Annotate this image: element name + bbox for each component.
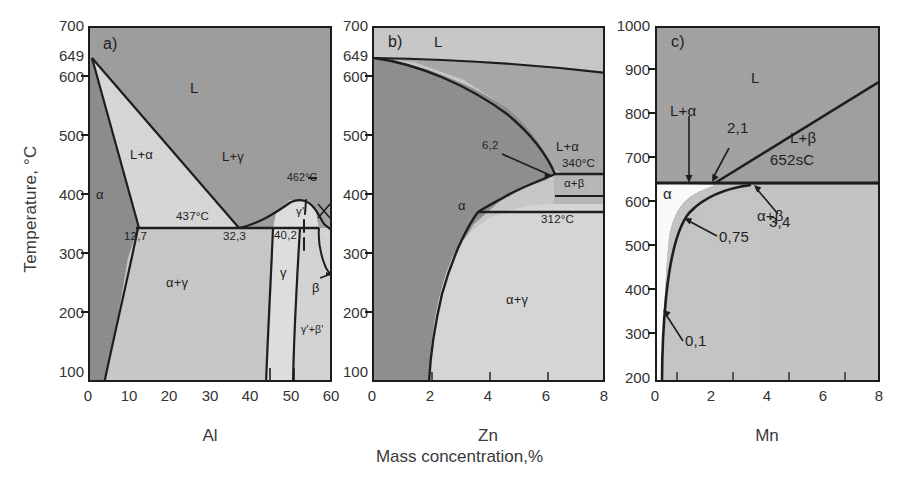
panel-c-label-alpha: α [663,186,672,201]
panel-a-ytickmark-300 [81,252,89,254]
panel-a-ytick-300: 300 [40,246,84,261]
panel-b-ytickmark-300 [365,252,373,254]
panel-a-xtick-40: 40 [234,388,266,403]
panel-b-label-6-2: 6,2 [482,140,499,152]
panel-a-ytick-400: 400 [40,187,84,202]
panel-a-label-40-2: 40,2 [274,230,297,242]
panel-b-ytick-500: 500 [324,128,368,143]
panel-b-ytick-300: 300 [324,246,368,261]
panel-b-mg-zn: b) L L+α α α+β α+γ 6,2 340°C 312°C 700 6… [372,26,605,382]
panel-c-ytick-300: 300 [600,326,650,341]
panel-a-label-gamma: γ [280,266,287,279]
panel-b-x-axis-name: Zn [408,426,568,446]
panel-a-xtick-60: 60 [315,388,347,403]
panel-b-xtick-2: 2 [414,388,446,403]
figure-caption: Mass concentration,% [0,447,919,467]
panel-c-label-0-75: 0,75 [719,229,749,244]
panel-c-label-3-4: 3,4 [769,214,790,229]
panel-a-xtick-0: 0 [72,388,104,403]
panel-b-xtick-0: 0 [356,388,388,403]
panel-a-label-alpha: α [96,188,104,201]
panel-a-label-l-alpha: L+α [130,148,153,161]
panel-c-ytick-200: 200 [600,370,650,385]
panel-b-plot-area: b) L L+α α α+β α+γ 6,2 340°C 312°C [372,26,605,382]
panel-b-ytickmark-200 [365,311,373,313]
panel-b-label-340c: 340°C [562,158,595,170]
panel-b-ytick-649: 649 [324,48,368,63]
panel-c-xtick-4: 4 [751,388,783,403]
panel-b-ytickmark-500 [365,134,373,136]
panel-a-ytickmark-500 [81,134,89,136]
panel-a-label-gamma-prime: γ' [296,206,304,218]
panel-c-ytick-700: 700 [600,150,650,165]
panel-c-ytickmark-300 [648,332,656,334]
panel-c-mg-mn: c) L L+α L+β α α+β 2,1 652sC 3,4 0,75 0,… [655,26,880,382]
panel-c-ytickmark-400 [648,288,656,290]
panel-a-ytick-100: 100 [40,364,84,379]
panel-a-ytickmark-600 [81,75,89,77]
panel-c-ytickmark-900 [648,68,656,70]
panel-c-label-l-beta: L+β [790,130,816,145]
panel-b-ytick-700: 700 [324,18,368,33]
panel-a-id: a) [103,36,118,52]
panel-a-label-beta: β [312,281,320,294]
panel-c-xtick-0: 0 [639,388,671,403]
panel-c-ytick-1000: 1000 [600,18,650,33]
panel-c-label-l-alpha: L+α [670,103,696,118]
panel-a-label-12-7: 12,7 [124,231,147,243]
panel-c-label-liquid: L [751,70,760,85]
panel-a-ytick-500: 500 [40,128,84,143]
panel-b-label-liquid: L [434,34,443,49]
panel-c-xtick-8: 8 [863,388,895,403]
panel-a-xtick-50: 50 [275,388,307,403]
panel-b-ytickmark-400 [365,193,373,195]
panel-b-label-alpha-gamma: α+γ [506,293,528,306]
panel-a-xtick-20: 20 [153,388,185,403]
panel-b-ytick-200: 200 [324,305,368,320]
panel-c-ytick-500: 500 [600,238,650,253]
panel-c-ytickmark-700 [648,156,656,158]
panel-c-ytickmark-500 [648,244,656,246]
panel-b-id: b) [388,34,403,50]
panel-a-ytick-200: 200 [40,305,84,320]
panel-a-label-462c: 462°C [287,172,317,183]
panel-a-mg-al: a) L L+α L+γ α α+γ γ γ' β γ'+β' 437°C 46… [88,26,332,382]
panel-b-ytickmark-600 [365,75,373,77]
panel-c-ytick-400: 400 [600,282,650,297]
panel-c-ytick-900: 900 [600,62,650,77]
panel-c-diagram [657,28,880,382]
panel-a-xtick-30: 30 [194,388,226,403]
panel-b-xtick-4: 4 [472,388,504,403]
panel-a-ytickmark-200 [81,311,89,313]
panel-a-xtick-10: 10 [113,388,145,403]
panel-a-x-axis-name: Al [130,426,290,446]
panel-a-label-32-3: 32,3 [223,231,246,243]
panel-c-label-0-1: 0,1 [685,333,706,348]
panel-a-ytick-649: 649 [40,48,84,63]
panel-c-id: c) [671,34,685,50]
panel-a-label-alpha-gamma: α+γ [166,276,188,289]
panel-a-label-l-gamma: L+γ [222,150,244,163]
panel-c-xtick-6: 6 [807,388,839,403]
panel-c-xtick-2: 2 [695,388,727,403]
panel-b-label-alpha: α [458,199,466,212]
panel-a-ytick-700: 700 [40,18,84,33]
panel-a-ytickmark-400 [81,193,89,195]
panel-a-label-gammaprime-betaprime: γ'+β' [301,324,323,335]
panel-b-ytick-100: 100 [324,364,368,379]
panel-c-ytick-600: 600 [600,194,650,209]
figure-phase-diagrams: Temperature, °C [0,0,919,491]
panel-c-ytick-800: 800 [600,106,650,121]
panel-b-label-l-alpha: L+α [556,140,579,153]
panel-b-ytick-400: 400 [324,187,368,202]
panel-c-label-652c: 652sC [770,152,814,167]
panel-c-ytickmark-800 [648,112,656,114]
panel-a-label-437c: 437°C [176,211,209,223]
panel-a-ytick-600: 600 [40,69,84,84]
panel-c-x-axis-name: Mn [687,426,847,446]
panel-b-diagram [374,28,605,382]
panel-a-label-liquid: L [190,80,199,95]
panel-a-plot-area: a) L L+α L+γ α α+γ γ γ' β γ'+β' 437°C 46… [88,26,332,382]
panel-b-xtick-6: 6 [530,388,562,403]
panel-c-plot-area: c) L L+α L+β α α+β 2,1 652sC 3,4 0,75 0,… [655,26,880,382]
